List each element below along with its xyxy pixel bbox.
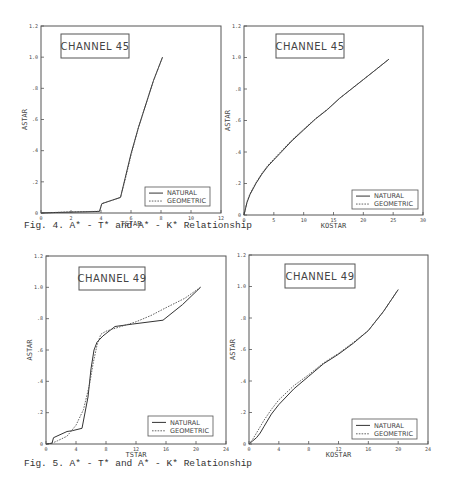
x-tick-label: 30 bbox=[420, 217, 426, 223]
x-tick-label: 4 bbox=[277, 446, 280, 452]
y-tick-label: 0 bbox=[35, 210, 38, 216]
chart-title: CHANNEL 49 bbox=[77, 273, 146, 284]
x-tick-label: 8 bbox=[307, 446, 310, 452]
y-tick-label: .8 bbox=[235, 86, 241, 92]
y-tick-label: .6 bbox=[37, 347, 43, 353]
legend-geometric-label: GEOMETRIC bbox=[374, 200, 413, 208]
x-tick-label: 0 bbox=[44, 446, 47, 452]
y-tick-label: .4 bbox=[32, 147, 38, 153]
x-axis-label: KOSTAR bbox=[326, 451, 352, 459]
x-axis-label: KOSTAR bbox=[321, 222, 347, 230]
y-tick-label: 1.0 bbox=[34, 284, 43, 290]
y-tick-label: .2 bbox=[235, 180, 241, 186]
y-tick-label: .2 bbox=[240, 409, 246, 415]
x-tick-label: 24 bbox=[223, 446, 229, 452]
y-tick-label: 1.2 bbox=[34, 253, 43, 259]
y-tick-label: .2 bbox=[37, 409, 43, 415]
x-tick-label: 20 bbox=[395, 446, 401, 452]
y-tick-label: .4 bbox=[240, 378, 246, 384]
y-tick-label: 0 bbox=[243, 441, 246, 447]
y-tick-label: .2 bbox=[32, 179, 38, 185]
y-axis-label: ASTAR bbox=[21, 108, 29, 130]
y-tick-label: 1.2 bbox=[232, 23, 241, 29]
y-tick-label: 1.2 bbox=[29, 23, 38, 29]
legend-geometric-label: GEOMETRIC bbox=[170, 427, 209, 435]
chart-title: CHANNEL 45 bbox=[60, 41, 129, 52]
chart-channel-45-tstar: 0246810120.2.4.6.81.01.2TSTARASTARCHANNE… bbox=[21, 23, 224, 228]
figure-5-caption: Fig. 5. A* - T* and A* - K* Relationship bbox=[24, 458, 252, 469]
y-tick-label: 1.0 bbox=[29, 54, 38, 60]
y-tick-label: .8 bbox=[32, 85, 38, 91]
x-tick-label: 25 bbox=[390, 217, 396, 223]
legend-geometric-label: GEOMETRIC bbox=[167, 197, 206, 205]
chart-channel-49-kostar: 048121620240.2.4.6.81.01.2KOSTARASTARCHA… bbox=[229, 252, 431, 459]
y-tick-label: 1.0 bbox=[232, 54, 241, 60]
y-tick-label: .6 bbox=[240, 346, 246, 352]
y-tick-label: 0 bbox=[40, 441, 43, 447]
chart-channel-49-tstar: 048121620240.2.4.6.81.01.2TSTARASTARCHAN… bbox=[26, 253, 229, 459]
y-tick-label: .4 bbox=[37, 378, 43, 384]
x-tick-label: 8 bbox=[104, 446, 107, 452]
y-tick-label: 1.0 bbox=[237, 283, 246, 289]
x-tick-label: 16 bbox=[365, 446, 371, 452]
x-tick-label: 5 bbox=[272, 217, 275, 223]
figure-4-caption: Fig. 4. A* - T* and A* - K* Relationship bbox=[24, 220, 252, 231]
y-tick-label: .6 bbox=[32, 116, 38, 122]
y-axis-label: ASTAR bbox=[26, 339, 34, 361]
y-tick-label: .4 bbox=[235, 149, 241, 155]
legend-natural-label: NATURAL bbox=[170, 419, 200, 427]
geometric-series-line bbox=[41, 57, 163, 213]
legend-natural-label: NATURAL bbox=[374, 192, 404, 200]
x-tick-label: 4 bbox=[74, 446, 77, 452]
x-tick-label: 16 bbox=[163, 446, 169, 452]
x-tick-label: 20 bbox=[193, 446, 199, 452]
chart-title: CHANNEL 45 bbox=[275, 41, 344, 52]
legend-natural-label: NATURAL bbox=[167, 189, 197, 197]
y-tick-label: .6 bbox=[235, 117, 241, 123]
y-axis-label: ASTAR bbox=[229, 338, 237, 360]
natural-series-line bbox=[41, 57, 163, 213]
x-tick-label: 24 bbox=[425, 446, 431, 452]
legend-geometric-label: GEOMETRIC bbox=[374, 430, 413, 438]
figure-canvas: 0246810120.2.4.6.81.01.2TSTARASTARCHANNE… bbox=[0, 0, 453, 489]
y-tick-label: .8 bbox=[37, 315, 43, 321]
x-tick-label: 20 bbox=[360, 217, 366, 223]
legend-natural-label: NATURAL bbox=[374, 422, 404, 430]
chart-channel-45-kostar: 0510152025300.2.4.6.81.01.2KOSTARASTARCH… bbox=[224, 23, 426, 230]
y-axis-label: ASTAR bbox=[224, 109, 232, 131]
y-tick-label: 0 bbox=[238, 212, 241, 218]
y-tick-label: .8 bbox=[240, 315, 246, 321]
y-tick-label: 1.2 bbox=[237, 252, 246, 258]
chart-title: CHANNEL 49 bbox=[285, 271, 354, 282]
x-tick-label: 10 bbox=[301, 217, 307, 223]
x-tick-label: 0 bbox=[247, 446, 250, 452]
